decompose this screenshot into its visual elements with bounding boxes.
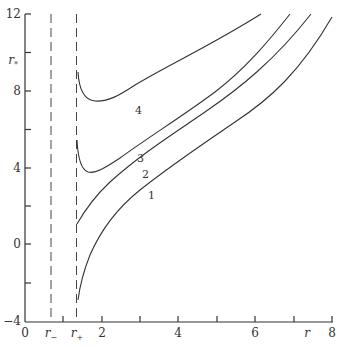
x-tick-2: 2 — [98, 326, 106, 340]
y-tick-8: 8 — [13, 84, 21, 98]
curve-2 — [77, 14, 311, 224]
y-tick-12: 12 — [6, 7, 21, 21]
x-tick-0: 0 — [21, 326, 29, 340]
curve-3 — [77, 14, 290, 172]
curve-label-4: 4 — [135, 104, 142, 117]
y-axis-label: r* — [8, 53, 18, 69]
x-tick-8: 8 — [328, 326, 336, 340]
x-tick-r-plus: r+ — [71, 326, 83, 342]
curve-label-3: 3 — [137, 152, 144, 165]
curve-label-1: 1 — [148, 189, 155, 202]
y-tick-0: 0 — [13, 237, 21, 251]
x-tick-4: 4 — [174, 326, 182, 340]
y-tick-neg4: −4 — [3, 314, 21, 328]
x-axis-label: r — [304, 326, 311, 340]
x-tick-6: 6 — [251, 326, 259, 340]
y-tick-4: 4 — [13, 161, 21, 175]
x-axis — [25, 316, 333, 322]
curve-1 — [78, 17, 332, 300]
x-tick-r-minus: r− — [45, 326, 57, 342]
chart: 1 2 3 4 12 8 4 0 −4 r* 0 r− r+ 2 4 6 r 8 — [0, 0, 345, 347]
y-axis — [25, 14, 31, 322]
curve-4 — [78, 14, 261, 101]
curve-label-2: 2 — [142, 168, 149, 181]
